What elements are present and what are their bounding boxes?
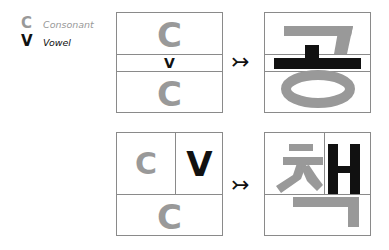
template-consonant-bottom: C [117,198,222,236]
legend-consonant-label: Consonant [43,19,94,31]
template-box-vertical: C V C [116,12,223,113]
legend-consonant-symbol: C [21,16,32,31]
template-consonant-left: C [117,147,175,181]
result-box-gong [264,12,371,113]
legend-vowel-label: Vowel [43,37,71,49]
template-box-horizontal: C V C [116,132,223,236]
legend-vowel-symbol: V [21,34,33,49]
result-box-chaek [264,132,371,236]
template-consonant-top: C [117,16,222,54]
divider [117,71,222,72]
divider [117,194,222,195]
arrow-icon: ↣ [231,51,249,73]
arrow-icon: ↣ [231,174,249,196]
template-consonant-bottom: C [117,75,222,113]
template-vowel-right: V [176,145,223,183]
template-vowel-middle: V [117,55,222,71]
syllable-chaek-glyph [265,133,372,237]
syllable-gong-glyph [265,13,372,114]
